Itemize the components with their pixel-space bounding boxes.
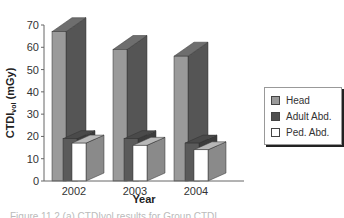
legend: Head Adult Abd. Ped. Abd. xyxy=(264,87,342,145)
legend-swatch-head xyxy=(271,96,280,105)
y-axis: 010203040506070 xyxy=(27,19,44,187)
legend-label: Ped. Abd. xyxy=(286,127,329,138)
x-tick-label: 2004 xyxy=(184,185,208,197)
y-tick-label: 50 xyxy=(27,64,39,76)
y-tick-label: 40 xyxy=(27,86,39,98)
y-tick-label: 10 xyxy=(27,153,39,165)
bar-ped-abd--2002 xyxy=(72,135,104,181)
legend-label: Head xyxy=(286,95,310,106)
figure-caption: Figure 11.2 (a) CTDIvol results for Grou… xyxy=(10,211,217,218)
y-tick-label: 20 xyxy=(27,130,39,142)
bar-ped-abd--2004 xyxy=(194,142,226,181)
legend-label: Adult Abd. xyxy=(286,111,332,122)
legend-swatch-adult-abd xyxy=(271,112,280,121)
legend-swatch-ped-abd xyxy=(271,128,280,137)
x-tick-label: 2002 xyxy=(62,185,86,197)
legend-item-head: Head xyxy=(271,95,310,106)
bars xyxy=(52,18,226,181)
x-axis-title: Year xyxy=(132,193,156,205)
y-tick-label: 0 xyxy=(33,175,39,187)
y-tick-label: 70 xyxy=(27,19,39,31)
y-tick-label: 60 xyxy=(27,41,39,53)
y-tick-label: 30 xyxy=(27,108,39,120)
y-axis-title: CTDIvol (mGy) xyxy=(4,67,17,138)
legend-item-ped-abd: Ped. Abd. xyxy=(271,127,329,138)
bar-ped-abd--2003 xyxy=(133,137,165,181)
legend-item-adult-abd: Adult Abd. xyxy=(271,111,332,122)
